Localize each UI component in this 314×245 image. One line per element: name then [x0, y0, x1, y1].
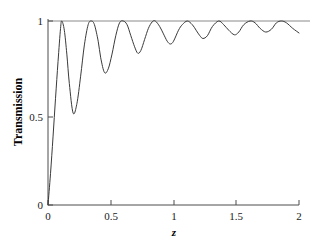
x-axis-title: z — [171, 226, 177, 238]
y-axis-title: Transmission — [11, 77, 25, 146]
x-tick-label-0.5: 0.5 — [104, 210, 118, 222]
x-tick-label-0: 0 — [45, 210, 51, 222]
plot-canvas: 1 0.5 0 0 0.5 1 1.5 2 z Transmission — [0, 0, 314, 245]
x-tick-label-1.5: 1.5 — [229, 210, 243, 222]
y-tick-label-0.5: 0.5 — [29, 111, 43, 123]
y-tick-label-1: 1 — [38, 15, 44, 27]
x-tick-label-1: 1 — [171, 210, 177, 222]
x-tick-label-2: 2 — [296, 210, 302, 222]
transmission-resonance-figure: 1 0.5 0 0 0.5 1 1.5 2 z Transmission — [0, 0, 314, 245]
figure-background — [0, 0, 314, 245]
y-tick-label-0: 0 — [38, 199, 44, 211]
